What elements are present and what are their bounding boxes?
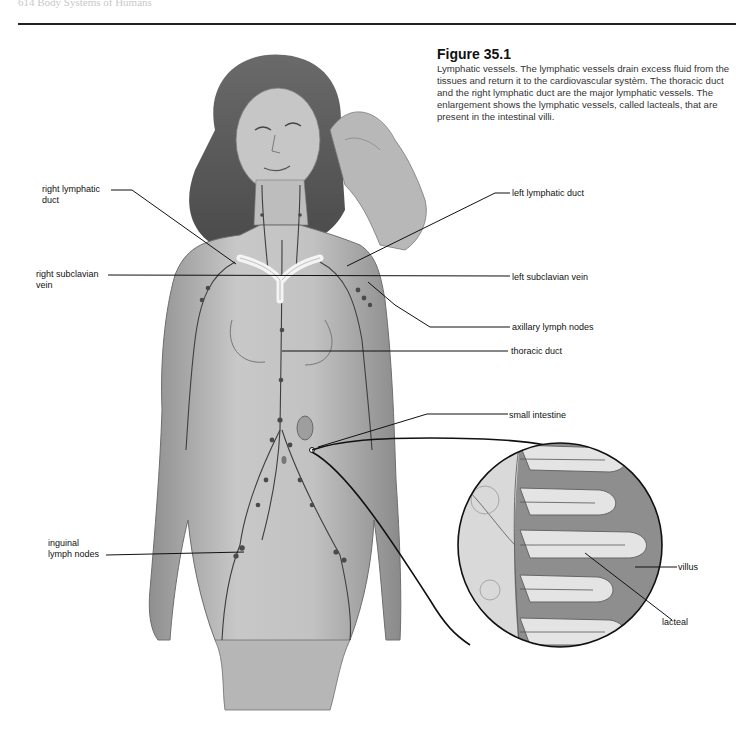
- label-thoracic-duct: thoracic duct: [511, 346, 562, 357]
- label-axillary-lymph-nodes: axillary lymph nodes: [512, 322, 594, 333]
- raised-arm: [330, 112, 426, 250]
- label-right-subclavian-vein: right subclavian vein: [36, 269, 99, 291]
- label-small-intestine: small intestine: [509, 410, 566, 421]
- label-lacteal: lacteal: [662, 617, 688, 628]
- label-right-lymphatic-duct: right lymphatic duct: [42, 184, 100, 206]
- label-inguinal-lymph-nodes: inguinal lymph nodes: [48, 538, 99, 560]
- label-villus: villus: [678, 562, 698, 573]
- lymphatic-system-illustration: [0, 0, 736, 735]
- label-left-subclavian-vein: left subclavian vein: [512, 272, 588, 283]
- label-left-lymphatic-duct: left lymphatic duct: [512, 188, 584, 199]
